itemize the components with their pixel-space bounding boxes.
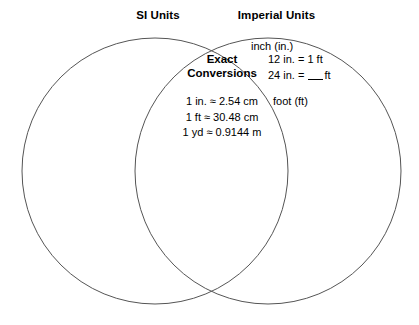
equation-unit-suffix: ft <box>324 69 330 81</box>
intersection-title-line-1: Exact <box>207 53 238 65</box>
imperial-equation-fill-in-blank: 24 in. = ft <box>268 68 357 84</box>
imperial-units-label: Imperial Units <box>200 9 353 23</box>
answer-blank[interactable] <box>308 79 323 80</box>
imperial-equation-inches-to-foot: 12 in. = 1 ft <box>268 52 357 68</box>
imperial-term-foot: foot (ft) <box>273 95 357 107</box>
conversion-row: 1 ft ≈ 30.48 cm <box>162 110 282 126</box>
imperial-term-inch: inch (in.) <box>251 40 357 52</box>
equation-prompt-text: 24 in. = <box>268 69 307 81</box>
imperial-only-content: inch (in.) 12 in. = 1 ft 24 in. = ft foo… <box>247 40 357 107</box>
venn-diagram-page: SI Units Imperial Units Exact Conversion… <box>0 0 419 325</box>
conversion-row: 1 yd ≈ 0.9144 m <box>162 125 282 141</box>
